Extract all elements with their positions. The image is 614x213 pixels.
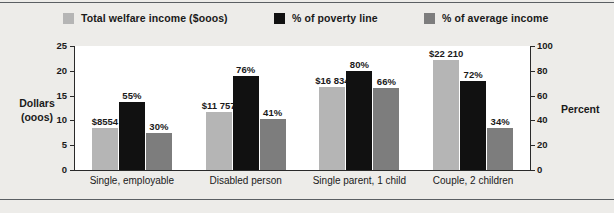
bar: 55% xyxy=(119,102,145,170)
left-axis-tick xyxy=(70,145,74,146)
chart-legend: Total welfare income ($ooos) % of povert… xyxy=(0,12,614,32)
bar-value-label: 76% xyxy=(236,64,255,76)
bar-value-label: 41% xyxy=(263,107,282,119)
right-axis-tick-label: 0 xyxy=(537,165,561,175)
left-axis-tick-label: 0 xyxy=(45,165,67,175)
right-axis-tick-label: 40 xyxy=(537,115,561,125)
bottom-divider xyxy=(0,199,614,200)
bar-group: $22 21072%34% xyxy=(433,46,513,170)
bar-group: $16 83480%66% xyxy=(319,46,399,170)
bar: $22 210 xyxy=(433,60,459,170)
right-axis-tick-label: 100 xyxy=(537,41,561,51)
right-axis-tick-label: 60 xyxy=(537,91,561,101)
bar: 41% xyxy=(260,119,286,170)
right-axis-title: Percent xyxy=(561,102,613,116)
bar-value-label: $16 834 xyxy=(315,75,349,87)
legend-swatch-icon xyxy=(63,13,74,24)
legend-label: % of average income xyxy=(442,12,548,24)
bar: 76% xyxy=(233,76,259,170)
bar-value-label: 66% xyxy=(377,76,396,88)
left-axis-line xyxy=(74,46,75,171)
bar: 30% xyxy=(146,133,172,170)
bar-value-label: 30% xyxy=(149,121,168,133)
right-axis-line xyxy=(530,46,531,171)
legend-label: % of poverty line xyxy=(292,12,378,24)
bar: 72% xyxy=(460,81,486,170)
bar-value-label: 80% xyxy=(350,59,369,71)
left-axis-tick xyxy=(70,170,74,171)
legend-swatch-icon xyxy=(424,13,435,24)
bar-value-label: $22 210 xyxy=(429,48,463,60)
legend-item-total-welfare-income: Total welfare income ($ooos) xyxy=(63,12,228,24)
category-label: Disabled person xyxy=(189,175,303,187)
right-axis-tick xyxy=(531,145,535,146)
right-axis-tick xyxy=(531,120,535,121)
bar-value-label: $8554 xyxy=(92,116,118,128)
legend-item-percent-of-average-income: % of average income xyxy=(424,12,548,24)
left-axis-tick xyxy=(70,120,74,121)
left-axis-tick xyxy=(70,46,74,47)
bar: 80% xyxy=(346,71,372,170)
legend-item-percent-of-poverty-line: % of poverty line xyxy=(274,12,378,24)
category-label: Single parent, 1 child xyxy=(303,175,417,187)
bar: $16 834 xyxy=(319,87,345,170)
right-axis-tick-label: 20 xyxy=(537,140,561,150)
bar-group: $855455%30% xyxy=(92,46,172,170)
left-axis-tick xyxy=(70,71,74,72)
top-divider xyxy=(0,2,614,3)
bar-value-label: 72% xyxy=(464,69,483,81)
legend-swatch-icon xyxy=(274,13,285,24)
bar: 34% xyxy=(487,128,513,170)
left-axis-tick-label: 10 xyxy=(45,115,67,125)
bar: $8554 xyxy=(92,128,118,170)
right-axis-tick xyxy=(531,71,535,72)
category-label: Couple, 2 children xyxy=(416,175,530,187)
left-axis-tick xyxy=(70,96,74,97)
bar-value-label: $11 757 xyxy=(202,100,236,112)
right-axis-tick xyxy=(531,96,535,97)
bar-group: $11 75776%41% xyxy=(206,46,286,170)
right-axis-tick xyxy=(531,170,535,171)
left-axis-tick-label: 20 xyxy=(45,66,67,76)
bar-value-label: 55% xyxy=(122,90,141,102)
bar: $11 757 xyxy=(206,112,232,170)
left-axis-tick-label: 15 xyxy=(45,91,67,101)
left-axis-tick-label: 25 xyxy=(45,41,67,51)
right-axis-tick xyxy=(531,46,535,47)
chart-page: Total welfare income ($ooos) % of povert… xyxy=(0,0,614,213)
x-axis-line xyxy=(74,170,531,171)
bar-value-label: 34% xyxy=(491,116,510,128)
bar: 66% xyxy=(373,88,399,170)
category-label: Single, employable xyxy=(75,175,189,187)
right-axis-tick-label: 80 xyxy=(537,66,561,76)
left-axis-tick-label: 5 xyxy=(45,140,67,150)
legend-label: Total welfare income ($ooos) xyxy=(81,12,228,24)
